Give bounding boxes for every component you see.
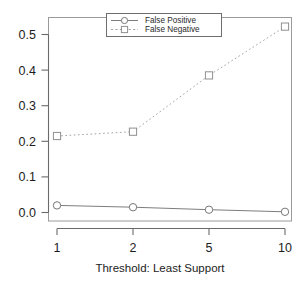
false-positive-point [129, 204, 136, 211]
x-tick-label-0: 1 [54, 241, 61, 255]
x-tick-label-1: 2 [130, 241, 137, 255]
chart-legend: False Positive False Negative [107, 14, 222, 37]
false-negative-point [205, 72, 212, 79]
line-chart: 0.5 0.4 0.3 0.2 0.1 0.0 1 2 5 10 Thresho… [0, 0, 306, 286]
false-positive-point [53, 202, 60, 209]
false-positive-point [281, 208, 288, 215]
x-tick-label-2: 5 [206, 241, 213, 255]
y-tick-label-2: 0.3 [19, 99, 36, 113]
y-tick-label-1: 0.4 [19, 64, 36, 78]
false-negative-point [281, 23, 288, 30]
y-tick-label-5: 0.0 [19, 206, 36, 220]
legend-square-marker [121, 26, 127, 32]
legend-circle-marker [121, 17, 127, 23]
y-tick-label-4: 0.1 [19, 170, 36, 184]
false-negative-point [53, 132, 60, 139]
chart-container: 0.5 0.4 0.3 0.2 0.1 0.0 1 2 5 10 Thresho… [0, 0, 306, 286]
y-tick-label-3: 0.2 [19, 135, 36, 149]
x-axis-title: Threshold: Least Support [95, 262, 225, 274]
false-positive-point [205, 206, 212, 213]
x-tick-label-3: 10 [278, 241, 292, 255]
false-negative-point [129, 128, 136, 135]
legend-label-false-positive: False Positive [145, 16, 196, 25]
legend-label-false-negative: False Negative [145, 25, 200, 34]
y-tick-label-0: 0.5 [19, 28, 36, 42]
